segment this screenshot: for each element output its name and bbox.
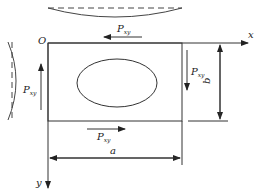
origin-label: O [38,35,46,46]
y-axis-label: y [35,177,42,188]
width-label: a [110,145,116,156]
plate [48,43,182,121]
top-buckle-shape [48,8,182,17]
top-load-label: Pxy [116,23,131,36]
plate-diagram: x y O Pxy Pxy Pxy Pxy b a [0,0,256,194]
left-buckle-shape [8,42,16,120]
height-label: b [201,78,212,84]
left-load-label: Pxy [22,84,37,97]
elliptical-cutout [77,59,157,107]
right-load-label: Pxy [190,66,205,79]
x-axis-label: x [248,29,254,40]
width-dimension [50,121,182,165]
bottom-load-label: Pxy [96,131,111,144]
